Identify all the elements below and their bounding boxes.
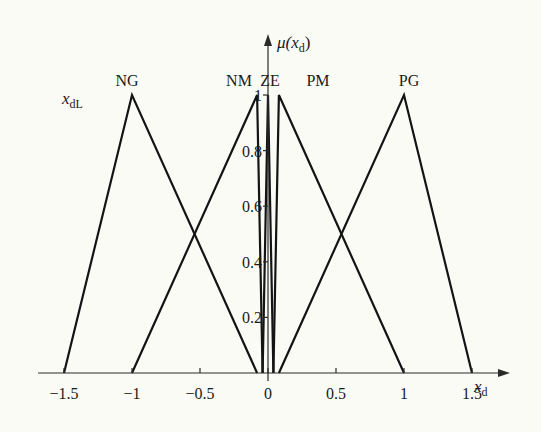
y-tick-label: 1 xyxy=(254,87,262,104)
membership-chart: xd μ(xd) xdL NGNMZEPMPG−1.5−1−0.500.511.… xyxy=(0,0,541,432)
series-label-ng: NG xyxy=(115,72,139,89)
x-axis-arrow-icon xyxy=(498,369,510,377)
y-tick-label: 0.8 xyxy=(242,143,262,160)
series-ng xyxy=(64,95,257,373)
y-tick-label: 0.2 xyxy=(242,309,262,326)
x-tick-label: 1 xyxy=(400,385,408,402)
series-pg xyxy=(279,95,472,373)
left-annotation: xdL xyxy=(61,89,83,111)
series-label-pm: PM xyxy=(306,72,329,89)
x-tick-label: 0.5 xyxy=(326,385,346,402)
x-tick-label: −1 xyxy=(123,385,140,402)
series-label-ze: ZE xyxy=(260,72,280,89)
y-axis-arrow-icon xyxy=(264,34,272,46)
x-tick-label: 0 xyxy=(264,385,272,402)
series-label-nm: NM xyxy=(226,72,252,89)
x-tick-label: −1.5 xyxy=(49,385,78,402)
y-tick-label: 0.4 xyxy=(242,254,262,271)
series-label-pg: PG xyxy=(399,72,420,89)
x-tick-label: 1.5 xyxy=(462,385,482,402)
y-axis-label: μ(xd) xyxy=(276,33,310,55)
y-tick-label: 0.6 xyxy=(242,198,262,215)
x-tick-label: −0.5 xyxy=(185,385,214,402)
